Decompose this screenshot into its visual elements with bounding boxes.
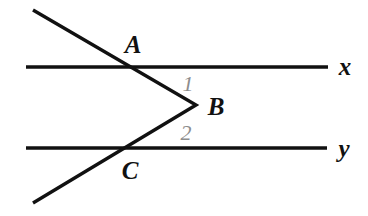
label-line-y: y [338,136,349,161]
label-line-x: x [339,54,352,79]
label-point-b: B [208,94,225,119]
geometry-diagram: A B C 1 2 x y [0,0,368,216]
label-angle-2: 2 [181,122,192,144]
label-point-a: A [125,32,142,57]
geometry-canvas [0,0,368,216]
zigzag-transversal [33,10,196,203]
label-angle-1: 1 [183,73,194,95]
label-point-c: C [122,158,139,183]
